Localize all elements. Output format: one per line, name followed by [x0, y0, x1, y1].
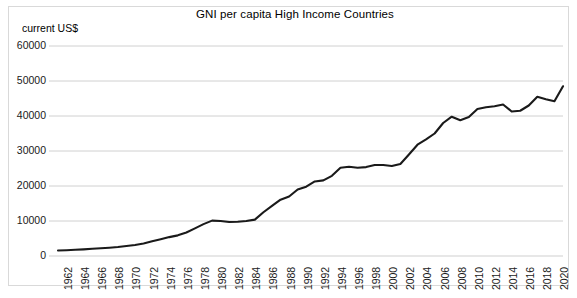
plot-area [0, 0, 577, 298]
gridlines [49, 46, 563, 256]
data-series-line [58, 86, 563, 250]
chart-container: current US$ GNI per capita High Income C… [0, 0, 577, 298]
line-path [58, 86, 563, 250]
